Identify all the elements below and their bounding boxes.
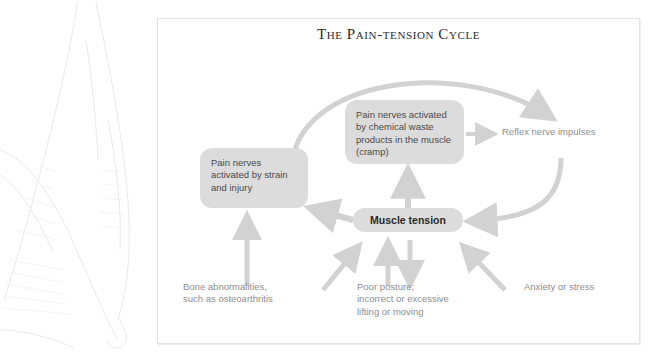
label-poor-posture: Poor posture; incorrect or excessive lif… [357,281,473,318]
node-chemical-waste: Pain nerves activated by chemical waste … [345,100,464,164]
node-muscle-tension: Muscle tension [353,208,463,232]
arrow-bonearea-to-muscle [323,246,359,290]
arrow-muscle-to-strain [310,208,353,220]
arrow-reflex-to-muscle [473,158,561,221]
label-reflex-nerve-impulses: Reflex nerve impulses [502,126,620,138]
figure-title: The Pain-tension Cycle [157,26,640,43]
figure-stage: The Pain-tension Cycle Pain nerves activ… [0,0,664,363]
label-anxiety-or-stress: Anxiety or stress [524,281,634,293]
node-strain-injury: Pain nerves activated by strain and inju… [200,148,308,208]
label-bone-abnormalities: Bone abnormalities, such as osteoarthrit… [183,281,303,306]
